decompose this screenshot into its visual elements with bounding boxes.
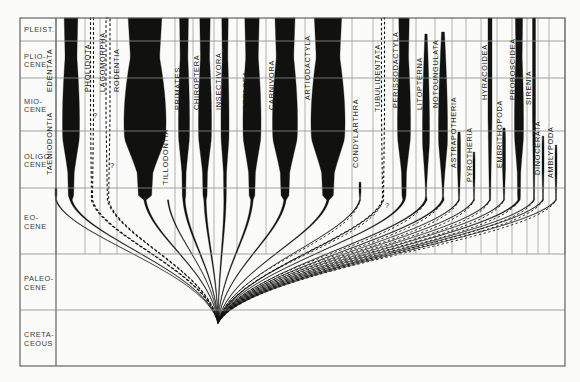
taxon-label-tillodontia: TILLODONTIA bbox=[161, 129, 170, 185]
taxon-label-notoungulata: NOTOUNGULATA bbox=[431, 39, 440, 108]
taxon-label-perissodactyla: PERISSODACTYLA bbox=[391, 31, 400, 108]
taxon-label-dinocerata: DINOCERATA bbox=[533, 121, 542, 175]
taxon-label-proboscidea: PROBOSCIDEA bbox=[508, 38, 517, 100]
taxon-label-condylarthra: CONDYLARTHRA bbox=[351, 99, 360, 168]
taxon-label-amblypoda: AMBLYPODA bbox=[546, 126, 555, 178]
taxon-label-chiroptera: CHIROPTERA bbox=[192, 55, 201, 110]
taxon-label-sirenia: SIRENIA bbox=[524, 71, 533, 105]
taxon-label-pyrotheria: PYROTHERIA bbox=[465, 127, 474, 182]
taxon-label-rodentia: RODENTIA bbox=[112, 48, 121, 92]
question-mark-tubulidentata: ? bbox=[385, 201, 389, 210]
taxon-label-cetacea: CETACEA bbox=[241, 71, 250, 110]
taxon-label-primates: PRIMATES bbox=[173, 67, 182, 110]
taxon-label-pholidota: PHOLIDOTA bbox=[83, 44, 92, 92]
taxon-label-litopterna: LITOPTERNA bbox=[415, 57, 424, 110]
phylogeny-figure: PLEIST.PLIO-CENEMIO-CENEOLIGO-CENEEO-CEN… bbox=[0, 0, 580, 382]
taxon-label-insectivora: INSECTIVORA bbox=[214, 52, 223, 110]
spindle-chart-canvas: PLEIST.PLIO-CENEMIO-CENEOLIGO-CENEEO-CEN… bbox=[0, 0, 580, 382]
taxon-label-astrapotheria: ASTRAPOTHERIA bbox=[449, 97, 458, 168]
taxon-label-tubulidentata: TUBULIDENTATA bbox=[373, 44, 382, 112]
epoch-label-creta: CRETA-CEOUS bbox=[24, 330, 54, 348]
question-mark-pholidota: ? bbox=[93, 111, 97, 120]
epoch-label-plio: PLIO-CENE bbox=[24, 52, 47, 70]
epoch-label-pleist: PLEIST. bbox=[24, 25, 55, 34]
taxon-label-carnivora: CARNIVORA bbox=[267, 60, 276, 110]
question-mark-lagomorpha: ? bbox=[110, 161, 114, 170]
taxon-label-taeniodontia: TAENIODONTIA bbox=[45, 112, 54, 175]
taxon-label-artiodactyla: ARTIODACTYLA bbox=[303, 35, 312, 100]
taxon-label-edentata: EDENTATA bbox=[45, 49, 54, 92]
taxon-label-embrithopoda: EMBRITHOPODA bbox=[495, 100, 504, 168]
taxon-label-lagomorpha: LAGOMORPHA bbox=[98, 32, 107, 92]
taxon-label-hyracoidea: HYRACOIDEA bbox=[480, 44, 489, 100]
